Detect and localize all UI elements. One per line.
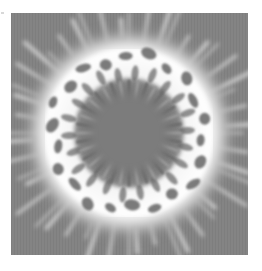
radial-pattern-image [11, 13, 248, 255]
edge-artifact [1, 12, 4, 14]
pattern-graphic [11, 13, 248, 255]
